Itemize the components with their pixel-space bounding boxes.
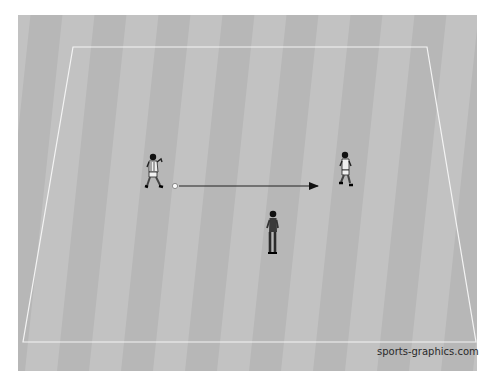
pitch-diagram xyxy=(0,0,495,388)
watermark-text: sports-graphics.com xyxy=(377,346,479,357)
ball-icon xyxy=(172,183,177,188)
grass-area xyxy=(18,15,477,371)
